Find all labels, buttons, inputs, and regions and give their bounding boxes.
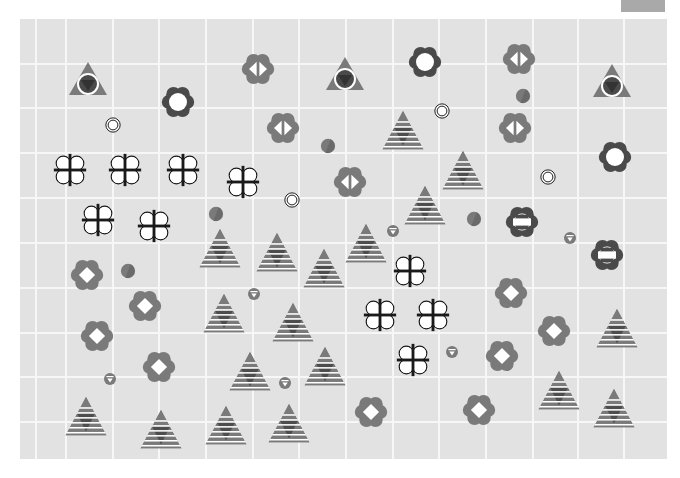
piece-pyramid-icon[interactable]: [202, 291, 246, 335]
piece-rings-icon[interactable]: [535, 164, 561, 190]
piece-pyramid-icon[interactable]: [204, 403, 248, 447]
piece-pin-icon[interactable]: [558, 226, 582, 250]
piece-pyramid-icon[interactable]: [403, 183, 447, 227]
piece-clover-plus-icon[interactable]: [361, 296, 399, 334]
grid-line-vertical: [65, 19, 67, 459]
piece-flower-lr-icon[interactable]: [332, 164, 368, 200]
piece-flower-diamond-icon[interactable]: [79, 318, 115, 354]
piece-flower-lr-icon[interactable]: [501, 41, 537, 77]
piece-flower-diamond-icon[interactable]: [484, 338, 520, 374]
piece-half-disc-icon[interactable]: [115, 258, 141, 284]
piece-half-disc-icon[interactable]: [315, 133, 341, 159]
piece-pyramid-icon[interactable]: [595, 306, 639, 350]
piece-clover-plus-icon[interactable]: [394, 341, 432, 379]
piece-clover-plus-icon[interactable]: [106, 151, 144, 189]
piece-pyramid-icon[interactable]: [592, 386, 636, 430]
piece-tri-eye-icon[interactable]: [325, 55, 365, 95]
piece-clover-plus-icon[interactable]: [164, 151, 202, 189]
piece-pyramid-icon[interactable]: [441, 148, 485, 192]
piece-flower-diamond-icon[interactable]: [141, 349, 177, 385]
piece-flower-lr-icon[interactable]: [240, 51, 276, 87]
piece-pyramid-icon[interactable]: [64, 394, 108, 438]
piece-pin-icon[interactable]: [98, 367, 122, 391]
piece-flower-diamond-icon[interactable]: [69, 257, 105, 293]
piece-rings-icon[interactable]: [429, 98, 455, 124]
piece-pyramid-icon[interactable]: [267, 401, 311, 445]
piece-pyramid-icon[interactable]: [255, 230, 299, 274]
top-right-button[interactable]: [621, 0, 665, 12]
piece-pyramid-icon[interactable]: [228, 349, 272, 393]
piece-pin-icon[interactable]: [273, 371, 297, 395]
piece-clover-plus-icon[interactable]: [414, 296, 452, 334]
piece-pyramid-icon[interactable]: [198, 226, 242, 270]
piece-clover-plus-icon[interactable]: [135, 207, 173, 245]
piece-flower-diamond-icon[interactable]: [536, 313, 572, 349]
piece-clover-plus-icon[interactable]: [391, 252, 429, 290]
piece-half-disc-icon[interactable]: [510, 83, 536, 109]
piece-flower-lr-icon[interactable]: [265, 110, 301, 146]
piece-flower-diamond-icon[interactable]: [353, 394, 389, 430]
piece-rings-icon[interactable]: [279, 187, 305, 213]
piece-pyramid-icon[interactable]: [303, 344, 347, 388]
piece-pin-icon[interactable]: [381, 219, 405, 243]
piece-pyramid-icon[interactable]: [271, 300, 315, 344]
piece-half-disc-icon[interactable]: [203, 201, 229, 227]
piece-clover-plus-icon[interactable]: [224, 163, 262, 201]
piece-clover-plus-icon[interactable]: [79, 201, 117, 239]
piece-pyramid-icon[interactable]: [302, 246, 346, 290]
piece-tri-eye-icon[interactable]: [68, 60, 108, 100]
piece-flower-eq-icon[interactable]: [589, 237, 625, 273]
piece-tri-eye-icon[interactable]: [592, 62, 632, 102]
grid-line-vertical: [112, 19, 114, 459]
grid-line-vertical: [438, 19, 440, 459]
grid-line-horizontal: [20, 107, 667, 109]
piece-half-disc-icon[interactable]: [461, 206, 487, 232]
piece-flower-diamond-icon[interactable]: [461, 392, 497, 428]
piece-flower-lr-icon[interactable]: [497, 110, 533, 146]
piece-clover-plus-icon[interactable]: [51, 151, 89, 189]
piece-flower-o-icon[interactable]: [597, 139, 633, 175]
piece-pyramid-icon[interactable]: [537, 368, 581, 412]
grid-line-horizontal: [20, 421, 667, 423]
piece-pin-icon[interactable]: [440, 340, 464, 364]
piece-rings-icon[interactable]: [100, 112, 126, 138]
piece-flower-diamond-icon[interactable]: [127, 288, 163, 324]
piece-flower-o-icon[interactable]: [160, 84, 196, 120]
piece-flower-eq-icon[interactable]: [504, 204, 540, 240]
grid-line-vertical: [35, 19, 37, 459]
piece-pin-icon[interactable]: [242, 282, 266, 306]
piece-pyramid-icon[interactable]: [139, 407, 183, 451]
piece-flower-o-icon[interactable]: [407, 44, 443, 80]
piece-pyramid-icon[interactable]: [381, 108, 425, 152]
piece-flower-diamond-icon[interactable]: [493, 275, 529, 311]
